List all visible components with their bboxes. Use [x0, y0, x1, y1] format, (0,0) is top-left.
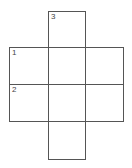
- cell-r0-c1[interactable]: 3: [48, 11, 86, 48]
- cell-r3-c1[interactable]: [48, 121, 86, 160]
- cell-r1-c2[interactable]: [85, 47, 124, 85]
- cell-r1-c0[interactable]: 1: [9, 47, 49, 85]
- cell-r2-c2[interactable]: [85, 84, 124, 122]
- cell-r2-c1[interactable]: [48, 84, 86, 122]
- clue-number: 1: [12, 49, 16, 57]
- clue-number: 3: [51, 13, 55, 21]
- clue-number: 2: [12, 86, 16, 94]
- cell-r1-c1[interactable]: [48, 47, 86, 85]
- cell-r2-c0[interactable]: 2: [9, 84, 49, 122]
